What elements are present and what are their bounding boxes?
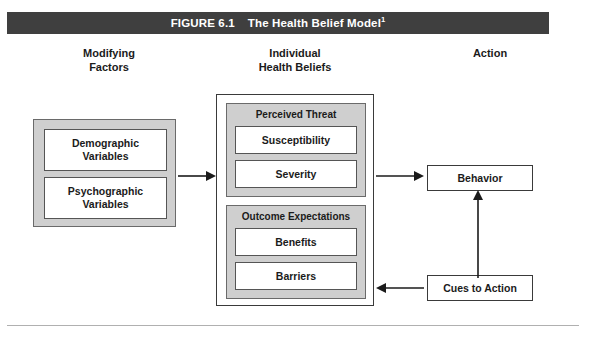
figure-number: FIGURE 6.1 <box>171 17 235 29</box>
perceived-threat-title: Perceived Threat <box>227 109 365 120</box>
outcome-expectations-group: Outcome Expectations Benefits Barriers <box>226 205 366 299</box>
figure-title: FIGURE 6.1The Health Belief Model1 <box>171 17 386 29</box>
arrow-modifying-to-beliefs-icon <box>178 170 216 182</box>
box-barriers: Barriers <box>235 262 357 290</box>
bottom-divider <box>7 325 579 326</box>
modifying-factors-group: Demographic Variables Psychographic Vari… <box>33 119 176 227</box>
box-psychographic-variables: Psychographic Variables <box>44 177 167 219</box>
box-susceptibility: Susceptibility <box>235 126 357 154</box>
column-heading-individual-health-beliefs: Individual Health Beliefs <box>205 46 385 74</box>
box-demographic-variables: Demographic Variables <box>44 129 167 171</box>
box-behavior: Behavior <box>427 165 533 191</box>
figure-footnote-marker: 1 <box>381 15 385 24</box>
arrow-cues-to-beliefs-icon <box>376 282 424 294</box>
column-heading-modifying-factors: Modifying Factors <box>34 46 184 74</box>
individual-health-beliefs-panel: Perceived Threat Susceptibility Severity… <box>216 94 374 306</box>
outcome-expectations-title: Outcome Expectations <box>227 211 365 222</box>
arrow-cues-to-behavior-icon <box>472 190 484 278</box>
box-benefits: Benefits <box>235 228 357 256</box>
figure-container: FIGURE 6.1The Health Belief Model1 Modif… <box>0 0 593 341</box>
perceived-threat-group: Perceived Threat Susceptibility Severity <box>226 103 366 197</box>
figure-title-bar: FIGURE 6.1The Health Belief Model1 <box>7 12 549 34</box>
box-severity: Severity <box>235 160 357 188</box>
box-cues-to-action: Cues to Action <box>427 275 533 301</box>
arrow-beliefs-to-behavior-icon <box>376 170 424 182</box>
figure-title-text: The Health Belief Model <box>248 17 381 29</box>
column-heading-action: Action <box>400 46 580 60</box>
